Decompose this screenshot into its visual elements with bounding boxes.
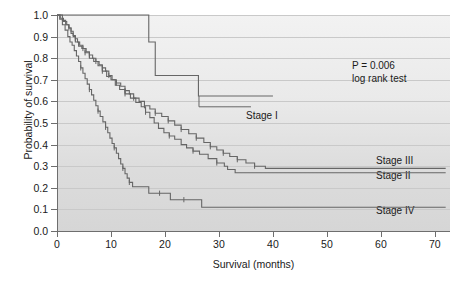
statistics-annotation: P = 0.006 log rank test — [352, 60, 406, 85]
x-axis-line — [57, 231, 450, 232]
y-tick-label: 0.0 — [0, 226, 48, 237]
curve-label-stage-1: Stage I — [246, 110, 278, 121]
y-tick — [51, 123, 57, 124]
y-tick — [51, 80, 57, 81]
curve-label-stage-2: Stage II — [376, 170, 410, 181]
y-tick-label: 1.0 — [0, 10, 48, 21]
gridline — [58, 166, 450, 167]
x-tick — [381, 232, 382, 237]
gridline — [58, 37, 450, 38]
curve-label-stage-3: Stage III — [376, 155, 413, 166]
y-tick — [51, 58, 57, 59]
gridline — [58, 15, 450, 16]
x-tick — [57, 232, 58, 237]
y-tick-label: 0.1 — [0, 204, 48, 215]
x-tick-label: 50 — [312, 239, 342, 250]
x-tick-label: 60 — [366, 239, 396, 250]
x-tick-label: 20 — [150, 239, 180, 250]
log-rank-test-text: log rank test — [352, 73, 406, 86]
curve-label-stage-4: Stage IV — [376, 205, 414, 216]
x-tick — [435, 232, 436, 237]
gridlines — [58, 15, 450, 231]
x-tick-label: 30 — [204, 239, 234, 250]
y-tick — [51, 145, 57, 146]
y-axis-title: Probability of survival — [22, 30, 34, 190]
x-tick — [273, 232, 274, 237]
y-tick — [51, 101, 57, 102]
y-tick — [51, 15, 57, 16]
gridline — [58, 101, 450, 102]
plot-area — [57, 15, 450, 231]
x-tick — [165, 232, 166, 237]
gridline — [58, 145, 450, 146]
x-tick — [219, 232, 220, 237]
x-axis-title: Survival (months) — [57, 258, 450, 270]
x-tick-label: 0 — [42, 239, 72, 250]
y-tick — [51, 166, 57, 167]
x-tick — [327, 232, 328, 237]
x-tick-label: 70 — [420, 239, 450, 250]
x-tick-label: 40 — [258, 239, 288, 250]
y-tick — [51, 209, 57, 210]
y-tick — [51, 188, 57, 189]
x-tick-label: 10 — [96, 239, 126, 250]
gridline — [58, 188, 450, 189]
x-tick — [111, 232, 112, 237]
y-axis-line — [57, 15, 58, 232]
survival-plot-figure: 0.00.10.20.30.40.50.60.70.80.91.0 010203… — [0, 0, 457, 283]
y-tick — [51, 37, 57, 38]
p-value-text: P = 0.006 — [352, 60, 406, 73]
gridline — [58, 123, 450, 124]
